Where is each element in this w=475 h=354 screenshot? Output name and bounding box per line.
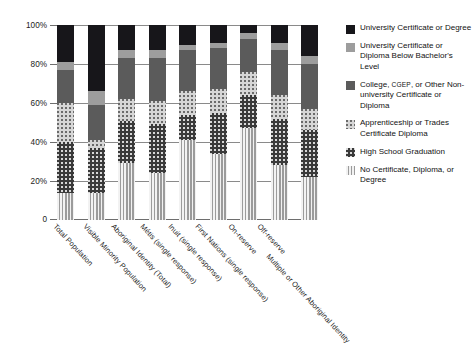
legend-swatch-icon: [346, 148, 355, 157]
education-attainment-stacked-bar-chart: 100% 80% 60% 40% 20% 0 Total PopulationV…: [0, 0, 475, 354]
bar-segment-nocert: [88, 193, 105, 220]
ytick-mark-40: [50, 142, 57, 143]
ytick-label-0: 0: [42, 215, 47, 224]
bar-segment-college: [271, 50, 288, 95]
bar-segment-nocert: [240, 128, 257, 220]
bar-segment-college: [149, 58, 166, 101]
bar-segment-nocert: [210, 154, 227, 220]
bar-segment-nocert: [57, 193, 74, 220]
legend-item-label: University Certificate or Degree: [360, 23, 471, 33]
bar-segment-univdeg: [118, 25, 135, 50]
legend-item[interactable]: University Certificate or Diploma Below …: [346, 41, 472, 72]
legend-item-label: University Certificate or Diploma Below …: [360, 41, 472, 72]
legend-item-label: No Certificate, Diploma, or Degree: [360, 165, 472, 186]
legend-item-label: High School Graduation: [360, 147, 445, 157]
ytick-label-40: 40%: [31, 138, 47, 147]
bar-segment-college: [210, 48, 227, 89]
bar-segment-appr: [179, 91, 196, 114]
bar-segment-univdeg: [57, 25, 74, 62]
legend-swatch-icon: [346, 25, 355, 34]
bar-segment-univdeg: [271, 25, 288, 43]
bar-segment-nocert: [301, 177, 318, 220]
bar-segment-univdeg: [301, 25, 318, 56]
legend-item[interactable]: Apprenticeship or Trades Certificate Dip…: [346, 118, 472, 139]
bar-segment-college: [118, 58, 135, 99]
bar-segment-appr: [57, 103, 74, 142]
legend-label-smallcaps: CGEP: [392, 81, 411, 88]
bar-segment-univbel: [118, 50, 135, 58]
bar-segment-univdeg: [88, 25, 105, 91]
bar-segment-univdeg: [210, 25, 227, 43]
bar-segment-appr: [118, 99, 135, 120]
bar-segment-hs: [210, 113, 227, 154]
legend-swatch-icon: [346, 120, 355, 129]
ytick-mark-20: [50, 181, 57, 182]
bar-segment-college: [240, 39, 257, 72]
bar-segment-hs: [240, 95, 257, 128]
x-axis-label: On-reserve: [226, 222, 258, 256]
bar-segment-univbel: [88, 91, 105, 105]
bar-segment-hs: [88, 148, 105, 193]
bar-segment-appr: [210, 89, 227, 112]
bar-column: [210, 25, 227, 220]
legend-swatch-icon: [346, 81, 355, 90]
bar-segment-univdeg: [179, 25, 196, 45]
bar-segment-hs: [271, 119, 288, 166]
bar-segment-hs: [57, 142, 74, 193]
bar-segment-college: [88, 105, 105, 140]
ytick-label-20: 20%: [31, 177, 47, 186]
bar-column: [149, 25, 166, 220]
bar-segment-appr: [149, 101, 166, 124]
bar-segment-appr: [301, 109, 318, 130]
bar-column: [240, 25, 257, 220]
bar-segment-nocert: [149, 173, 166, 220]
bar-segment-appr: [240, 72, 257, 95]
ytick-label-100: 100%: [26, 21, 47, 30]
plot-area: [57, 25, 318, 220]
ytick-mark-80: [50, 64, 57, 65]
bar-segment-univbel: [301, 56, 318, 64]
bar-segment-college: [179, 50, 196, 91]
bar-segment-univbel: [271, 43, 288, 51]
ytick-mark-60: [50, 103, 57, 104]
bar-segment-college: [301, 64, 318, 109]
legend-item-label: College, CGEP, or Other Non-university C…: [360, 80, 472, 111]
bar-segment-hs: [301, 130, 318, 177]
ytick-label-60: 60%: [31, 99, 47, 108]
bar-segment-hs: [149, 124, 166, 173]
ytick-mark-0: [50, 219, 57, 220]
bar-segment-college: [57, 70, 74, 103]
x-axis-label: Multiple or Other Aboriginal Identity: [264, 252, 352, 345]
legend-item[interactable]: High School Graduation: [346, 147, 472, 158]
legend-item-label: Apprenticeship or Trades Certificate Dip…: [360, 118, 472, 139]
bar-segment-hs: [179, 115, 196, 140]
x-axis-label-group: Total PopulationVisible Minority Populat…: [57, 222, 318, 347]
bar-segment-univdeg: [149, 25, 166, 50]
bar-column: [301, 25, 318, 220]
ytick-label-80: 80%: [31, 60, 47, 69]
bar-segment-appr: [271, 95, 288, 118]
bar-column: [118, 25, 135, 220]
ytick-mark-100: [50, 25, 57, 26]
bar-segment-nocert: [179, 140, 196, 220]
legend-item[interactable]: College, CGEP, or Other Non-university C…: [346, 80, 472, 111]
legend-item[interactable]: No Certificate, Diploma, or Degree: [346, 165, 472, 186]
chart-legend: University Certificate or DegreeUniversi…: [346, 23, 472, 193]
legend-swatch-icon: [346, 166, 355, 175]
bar-column: [88, 25, 105, 220]
bar-column: [179, 25, 196, 220]
bar-column: [57, 25, 74, 220]
legend-swatch-icon: [346, 43, 355, 52]
bar-segment-univbel: [57, 62, 74, 70]
bar-segment-appr: [88, 140, 105, 148]
bar-segment-hs: [118, 121, 135, 164]
bar-segment-nocert: [271, 165, 288, 220]
bar-segment-univdeg: [240, 25, 257, 33]
bar-group: [57, 25, 318, 220]
bar-column: [271, 25, 288, 220]
bar-segment-univbel: [149, 50, 166, 58]
bar-segment-nocert: [118, 163, 135, 220]
legend-item[interactable]: University Certificate or Degree: [346, 23, 472, 34]
x-axis-label: Off-reserve: [255, 222, 287, 256]
